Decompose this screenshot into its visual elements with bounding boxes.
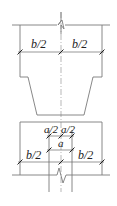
- lower-left-b-half-label: b/2: [26, 148, 41, 162]
- inner-right-a-half-label: a/2: [61, 123, 76, 135]
- bottom-break-symbol: [57, 168, 66, 183]
- inner-full-dimension: a: [47, 137, 75, 153]
- inner-left-a-half-label: a/2: [44, 123, 59, 135]
- inner-a-label: a: [58, 137, 64, 149]
- upper-right-b-half-label: b/2: [72, 37, 87, 51]
- structural-diagram: b/2 b/2 a/2 a/2 a b/2 b/2: [0, 0, 117, 206]
- lower-right-b-half-label: b/2: [78, 148, 93, 162]
- upper-left-b-half-label: b/2: [31, 37, 46, 51]
